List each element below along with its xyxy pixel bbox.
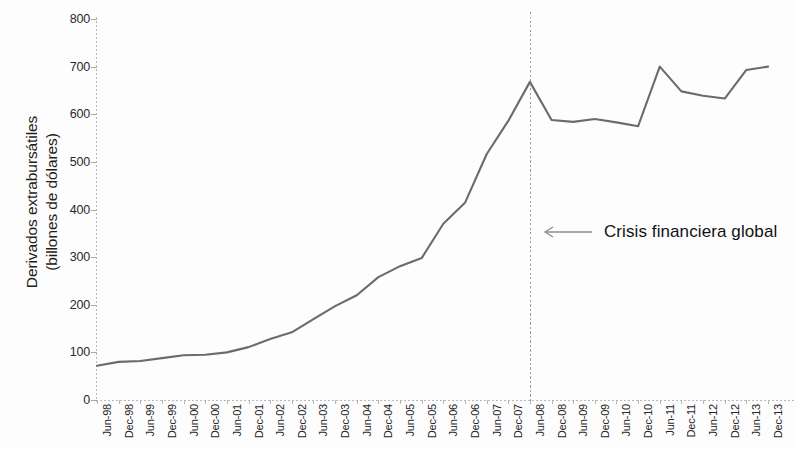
y-axis-tick-label: 0 (50, 393, 90, 407)
y-axis-tick-labels: 0100200300400500600700800 (45, 19, 90, 400)
x-axis-tick-label: Dec-02 (296, 404, 308, 438)
x-axis-tick-label: Jun-03 (317, 404, 329, 436)
x-axis-tick-label: Dec-06 (469, 404, 481, 438)
x-axis-tick-label: Dec-03 (339, 404, 351, 438)
y-axis-tick-mark (91, 19, 97, 20)
x-axis-tick-label: Jun-02 (274, 404, 286, 436)
x-axis-tick-label: Dec-13 (772, 404, 784, 438)
x-axis-tick-label: Jun-09 (577, 404, 589, 436)
y-axis-tick-label: 700 (50, 60, 90, 74)
y-axis-tick-label: 500 (50, 155, 90, 169)
y-axis-title-line-1: Derivados extrabursátiles (22, 116, 42, 288)
crisis-annotation: Crisis financiera global (542, 222, 777, 242)
x-axis-tick-label: Jun-13 (750, 404, 762, 436)
x-axis-tick-label: Jun-07 (491, 404, 503, 436)
x-axis-tick-label: Dec-04 (382, 404, 394, 438)
x-axis-tick-label: Dec-07 (512, 404, 524, 438)
x-axis-line (96, 400, 795, 401)
y-axis-tick-mark (91, 162, 97, 163)
y-axis-tick-mark (91, 210, 97, 211)
y-axis-tick-label: 800 (50, 12, 90, 26)
y-axis-tick-label: 200 (50, 298, 90, 312)
x-axis-tick-label: Dec-98 (123, 404, 135, 438)
y-axis-tick-label: 300 (50, 250, 90, 264)
x-axis-tick-label: Jun-01 (231, 404, 243, 436)
y-axis-tick-label: 100 (50, 345, 90, 359)
x-axis-tick-label: Jun-05 (404, 404, 416, 436)
x-axis-tick-labels: Jun-98Dec-98Jun-99Dec-99Jun-00Dec-00Jun-… (97, 404, 795, 449)
x-axis-tick-label: Dec-08 (556, 404, 568, 438)
x-axis-tick-label: Jun-98 (101, 404, 113, 436)
x-axis-tick-label: Jun-00 (188, 404, 200, 436)
x-axis-tick-label: Dec-11 (685, 404, 697, 437)
left-arrow-icon (542, 225, 594, 239)
x-axis-tick-label: Dec-12 (729, 404, 741, 438)
x-axis-tick-label: Jun-06 (447, 404, 459, 436)
x-axis-tick-label: Jun-08 (534, 404, 546, 436)
x-axis-tick-label: Jun-99 (144, 404, 156, 436)
y-axis-tick-mark (91, 114, 97, 115)
x-axis-tick-label: Jun-11 (664, 404, 676, 436)
crisis-annotation-label: Crisis financiera global (604, 222, 777, 242)
y-axis-tick-mark (91, 305, 97, 306)
x-axis-tick-label: Dec-00 (209, 404, 221, 438)
y-axis-tick-label: 600 (50, 107, 90, 121)
y-axis-tick-mark (91, 257, 97, 258)
x-axis-tick-label: Dec-09 (599, 404, 611, 438)
x-axis-tick-label: Dec-01 (253, 404, 265, 438)
x-axis-tick-label: Jun-12 (707, 404, 719, 436)
x-axis-tick-label: Dec-10 (642, 404, 654, 438)
x-axis-tick-label: Jun-04 (361, 404, 373, 436)
x-axis-tick-label: Dec-99 (166, 404, 178, 438)
y-axis-tick-label: 400 (50, 203, 90, 217)
x-axis-tick-label: Dec-05 (426, 404, 438, 438)
y-axis-tick-mark (91, 67, 97, 68)
crisis-vertical-line (530, 12, 531, 404)
chart-screenshot: Derivados extrabursátiles (billones de d… (0, 0, 795, 449)
y-axis-tick-mark (91, 352, 97, 353)
x-axis-tick-label: Jun-10 (620, 404, 632, 436)
